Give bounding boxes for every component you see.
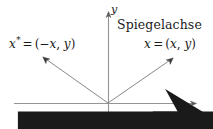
vector-arrow-accent-icon [9,31,16,37]
mirrored-vector-symbol: x [9,38,16,50]
vector-symbol: x [144,38,151,50]
mirror-axis-caption: Spiegelachse [117,19,202,32]
vector-label: x=(x, y) [144,38,196,50]
vector-arrow-accent-icon [144,31,151,37]
mirrored-vector-label: x*=(−x, y) [9,38,75,50]
mirror-axis-vector-diagram: y x Spiegelachse x*=(−x, y) x=(x, y) [0,0,213,129]
y-axis-label: y [111,4,117,15]
